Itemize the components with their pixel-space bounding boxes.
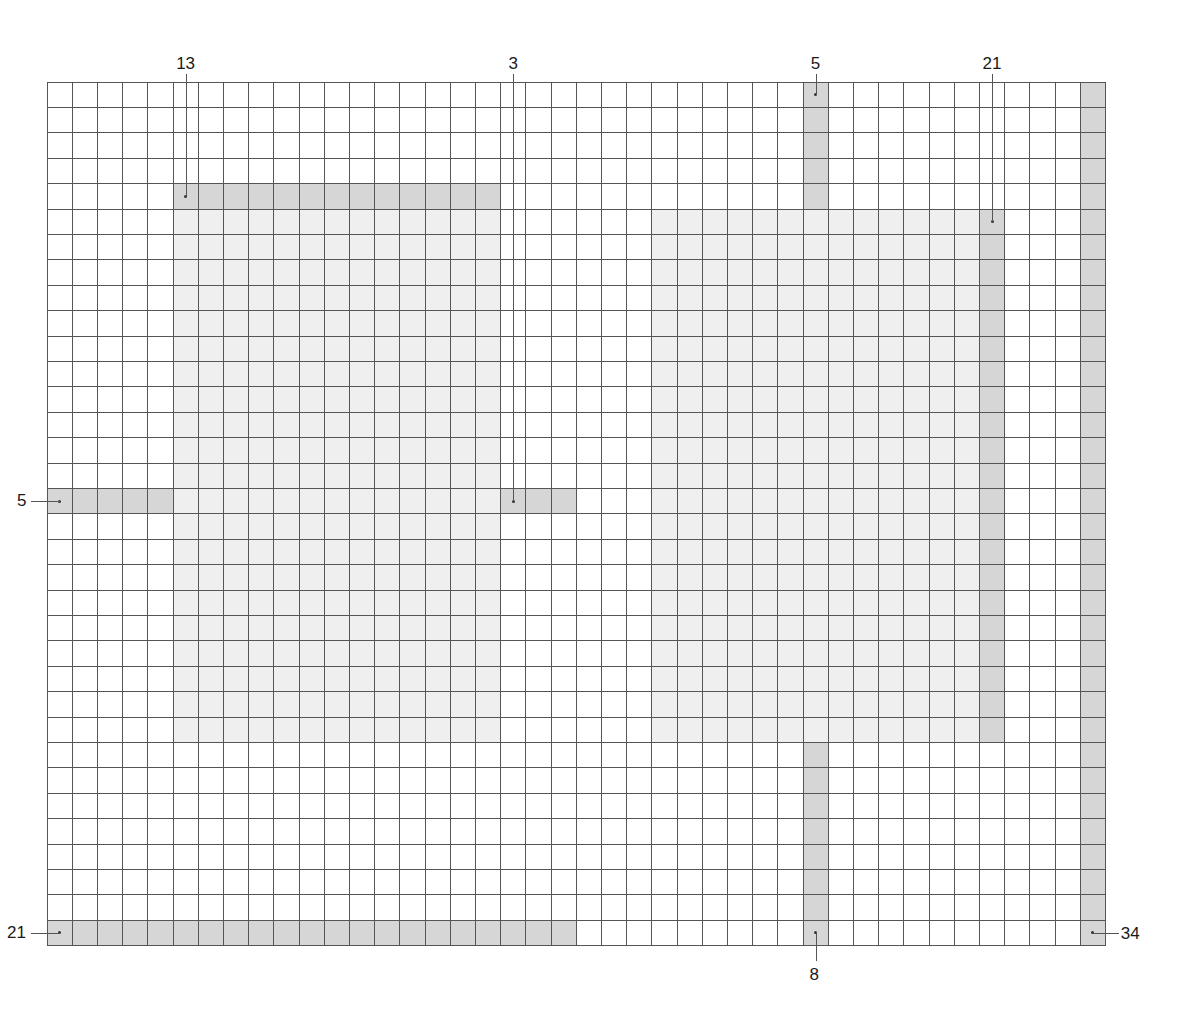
grid-line-horizontal [47, 767, 1105, 768]
grid-line-horizontal [47, 666, 1105, 667]
strip-21-right [979, 209, 1004, 742]
grid-line-horizontal [47, 513, 1105, 514]
leader-line [513, 74, 514, 501]
grid-line-horizontal [47, 209, 1105, 210]
leader-line [31, 933, 60, 934]
leader-line [1093, 933, 1119, 934]
grid-line-horizontal [47, 183, 1105, 184]
grid-line-horizontal [47, 844, 1105, 845]
grid-line-horizontal [47, 869, 1105, 870]
grid-line-horizontal [47, 793, 1105, 794]
dimension-label: 3 [505, 54, 521, 74]
grid-line-horizontal [47, 107, 1105, 108]
grid-line-horizontal [47, 564, 1105, 565]
leader-line [31, 501, 60, 502]
grid-line-horizontal [47, 640, 1105, 641]
grid-line-horizontal [47, 717, 1105, 718]
grid-line-horizontal [47, 386, 1105, 387]
grid-line-horizontal [47, 310, 1105, 311]
grid-line-horizontal [47, 818, 1105, 819]
dimension-label: 21 [7, 923, 26, 943]
strip-5-top [803, 82, 828, 209]
grid-line-horizontal [47, 463, 1105, 464]
grid-line-horizontal [47, 539, 1105, 540]
grid-line-horizontal [47, 132, 1105, 133]
grid-line-horizontal [47, 488, 1105, 489]
grid-line-horizontal [47, 82, 1105, 83]
grid-line-horizontal [47, 234, 1105, 235]
leader-line [992, 74, 993, 222]
grid-line-horizontal [47, 259, 1105, 260]
grid-line-horizontal [47, 285, 1105, 286]
grid-line-horizontal [47, 742, 1105, 743]
grid-line-horizontal [47, 615, 1105, 616]
dimension-label: 34 [1121, 924, 1140, 944]
leader-line [816, 74, 817, 95]
grid-line-horizontal [47, 361, 1105, 362]
grid-line-horizontal [47, 590, 1105, 591]
strip-21-bottom [47, 920, 576, 945]
fibonacci-grid-diagram: 133521521834 [0, 0, 1192, 1032]
grid-line-horizontal [47, 894, 1105, 895]
grid-line-horizontal [47, 920, 1105, 921]
grid-line-horizontal [47, 158, 1105, 159]
grid-line-horizontal [47, 412, 1105, 413]
strip-5-left [47, 488, 173, 513]
grid-line-horizontal [47, 336, 1105, 337]
dimension-label: 8 [810, 965, 819, 985]
dimension-label: 13 [174, 54, 198, 74]
leader-line [816, 933, 817, 961]
dimension-label: 5 [808, 54, 824, 74]
dimension-label: 21 [980, 54, 1004, 74]
grid-line-horizontal [47, 437, 1105, 438]
dimension-label: 5 [17, 491, 26, 511]
grid-line-horizontal [47, 945, 1105, 946]
grid-line-horizontal [47, 691, 1105, 692]
leader-line [186, 74, 187, 196]
